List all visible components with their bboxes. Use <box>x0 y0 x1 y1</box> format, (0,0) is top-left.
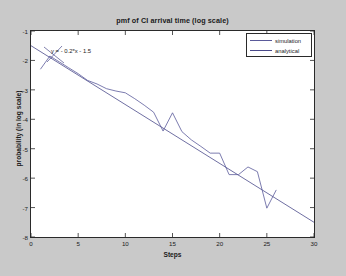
simulation-series-line <box>40 56 276 208</box>
x-tick-label: 30 <box>304 240 324 247</box>
analytical-series-line <box>31 46 314 223</box>
x-tick-label: 0 <box>21 240 41 247</box>
x-tick-label: 25 <box>257 240 277 247</box>
y-tick-label: -4 <box>14 116 28 123</box>
legend-label: simulation <box>275 38 301 44</box>
y-tick-label: -2 <box>14 57 28 64</box>
legend-item-analytical[interactable]: analytical <box>247 45 313 56</box>
y-tick-label: -7 <box>14 204 28 211</box>
legend-line-icon <box>250 50 272 51</box>
equation-annotation: y = - 0.2*x - 1.5 <box>51 48 91 54</box>
x-tick-label: 15 <box>163 240 183 247</box>
chart-legend[interactable]: simulation analytical <box>246 33 312 57</box>
x-tick-label: 20 <box>210 240 230 247</box>
y-tick-label: -1 <box>14 28 28 35</box>
legend-line-icon <box>250 40 272 41</box>
legend-label: analytical <box>275 48 299 54</box>
y-tick-label: -6 <box>14 175 28 182</box>
y-tick-label: -5 <box>14 145 28 152</box>
figure-canvas: pmf of CI arrival time (log scale) proba… <box>0 0 346 276</box>
x-tick-label: 5 <box>68 240 88 247</box>
y-tick-label: -3 <box>14 86 28 93</box>
x-tick-label: 10 <box>115 240 135 247</box>
